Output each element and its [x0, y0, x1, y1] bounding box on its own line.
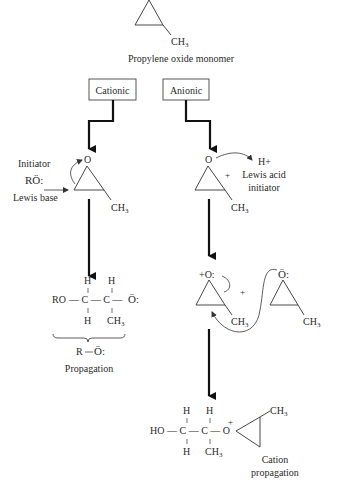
cationic-arrow — [89, 100, 113, 149]
svg-text:+O:: +O: — [199, 269, 215, 280]
brace-formula-r: R — [76, 346, 83, 357]
initiator-label: Initiator — [18, 158, 51, 169]
cation-label-line2: propagation — [251, 467, 299, 478]
monomer-label: Propylene oxide monomer — [128, 53, 235, 64]
second-monomer: Ö: CH3 — [270, 268, 321, 329]
svg-text:CH3: CH3 — [270, 405, 288, 418]
acid-label-line1: Lewis acid — [242, 169, 286, 180]
svg-text:CH3: CH3 — [231, 202, 249, 215]
svg-text:H: H — [84, 275, 91, 286]
polymerization-diagram: CH3 Propylene oxide monomer Cationic Ani… — [0, 0, 341, 495]
svg-text:Ö:: Ö: — [278, 268, 289, 280]
svg-text:— C — C — O: — C — C — O — [166, 425, 230, 436]
acid-formula: H+ — [258, 156, 271, 167]
acid-label-line2: initiator — [248, 182, 280, 193]
svg-text:H: H — [108, 275, 115, 286]
svg-text:CH3: CH3 — [107, 315, 125, 328]
lewis-base-label: Lewis base — [13, 192, 58, 203]
svg-text:CH3: CH3 — [111, 202, 129, 215]
svg-text:Cationic: Cationic — [96, 85, 130, 96]
svg-text:O: O — [84, 154, 91, 165]
monomer-ch3: CH3 — [171, 36, 189, 49]
svg-text:CH3: CH3 — [205, 446, 223, 459]
svg-text:— C — C —: — C — C — — [68, 294, 123, 305]
svg-text:O: O — [205, 154, 212, 165]
curly-brace — [53, 334, 125, 342]
cationic-product: H H RO — C — C — Ö: H CH3 — [52, 275, 139, 328]
propagation-label: Propagation — [65, 363, 113, 374]
svg-text:H: H — [206, 405, 213, 416]
svg-text:RO: RO — [52, 294, 66, 305]
svg-text:CH3: CH3 — [303, 316, 321, 329]
svg-text:Ö:: Ö: — [128, 293, 139, 305]
anionic-box: Anionic — [163, 79, 209, 100]
anionic-arrow — [186, 100, 210, 149]
svg-text:+: + — [228, 417, 233, 427]
cationic-epoxide-ring: O CH3 — [74, 154, 129, 215]
svg-text:H: H — [84, 315, 91, 326]
initiator-formula: RÖ: — [25, 174, 43, 186]
cationic-box: Cationic — [89, 79, 136, 100]
monomer-structure: CH3 — [135, 0, 189, 49]
svg-text:H: H — [183, 405, 190, 416]
svg-text:Anionic: Anionic — [170, 85, 203, 96]
anionic-epoxide-ring: O CH3 — [195, 154, 249, 215]
oxonium-ring: +O: CH3 — [196, 269, 249, 329]
cation-label-line1: Cation — [262, 454, 289, 465]
brace-formula-o: Ö: — [94, 345, 105, 357]
svg-text:CH3: CH3 — [231, 316, 249, 329]
plus-sign: + — [225, 170, 230, 180]
svg-text:HO: HO — [150, 425, 164, 436]
plus-between: + — [240, 287, 245, 297]
anionic-product: H H HO — C — C — O + CH3 H CH3 — [150, 405, 288, 459]
svg-text:H: H — [183, 446, 190, 457]
